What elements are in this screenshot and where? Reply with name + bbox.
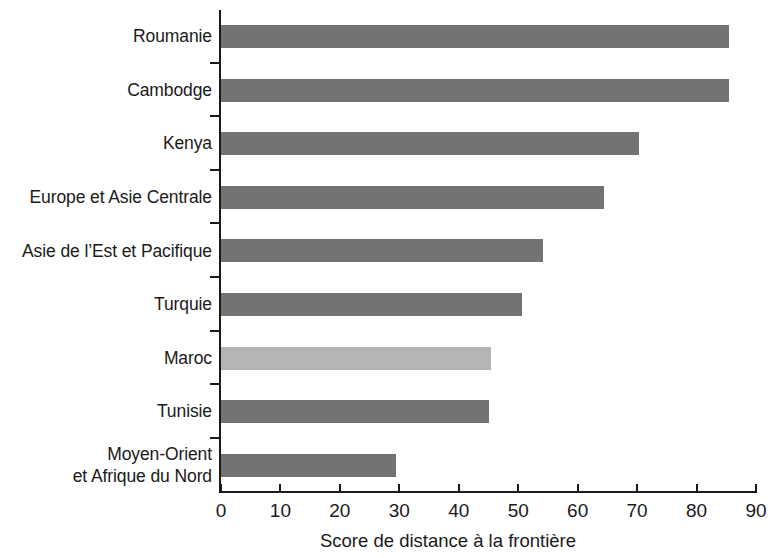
bar-row: Maroc — [0, 332, 766, 386]
category-label: Maroc — [0, 332, 212, 386]
x-axis-tick-label: 80 — [667, 500, 727, 522]
bar — [221, 454, 396, 477]
bar-row: Tunisie — [0, 385, 766, 439]
y-axis-tick — [210, 62, 220, 64]
x-axis-tick-label: 20 — [310, 500, 370, 522]
x-axis-tick — [220, 484, 222, 493]
x-axis-tick-label: 50 — [488, 500, 548, 522]
bar — [221, 186, 604, 209]
bar-row: Cambodge — [0, 64, 766, 118]
category-label: Cambodge — [0, 64, 212, 118]
bar — [221, 132, 639, 155]
x-axis-tick — [696, 484, 698, 493]
bar — [221, 239, 543, 262]
bar — [221, 293, 522, 316]
x-axis-tick — [755, 484, 757, 493]
y-axis-tick — [210, 437, 220, 439]
category-label: Kenya — [0, 117, 212, 171]
category-label: Europe et Asie Centrale — [0, 171, 212, 225]
x-axis-tick-label: 0 — [191, 500, 251, 522]
bar-row: Moyen-Orient et Afrique du Nord — [0, 439, 766, 493]
x-axis-tick — [517, 484, 519, 493]
bar-row: Asie de l’Est et Pacifique — [0, 224, 766, 278]
bar-row: Kenya — [0, 117, 766, 171]
x-axis-tick-label: 90 — [726, 500, 771, 522]
x-axis-tick-label: 10 — [250, 500, 310, 522]
category-label: Roumanie — [0, 10, 212, 64]
x-axis-tick — [339, 484, 341, 493]
bar-row: Roumanie — [0, 10, 766, 64]
x-axis-title-wrap: Score de distance à la frontière — [0, 530, 766, 552]
x-axis-tick — [279, 484, 281, 493]
x-axis-tick — [577, 484, 579, 493]
y-axis-tick — [210, 169, 220, 171]
x-axis-tick — [636, 484, 638, 493]
bar — [221, 347, 491, 370]
category-label: Turquie — [0, 278, 212, 332]
x-axis-tick-label: 30 — [369, 500, 429, 522]
category-label: Asie de l’Est et Pacifique — [0, 224, 212, 278]
x-axis-tick-label: 70 — [607, 500, 667, 522]
x-axis-tick — [398, 484, 400, 493]
bar — [221, 25, 729, 48]
x-axis-tick — [458, 484, 460, 493]
category-label: Moyen-Orient et Afrique du Nord — [0, 439, 212, 493]
category-label: Tunisie — [0, 385, 212, 439]
bar-row: Europe et Asie Centrale — [0, 171, 766, 225]
x-axis-tick-label: 60 — [548, 500, 608, 522]
bar — [221, 400, 489, 423]
y-axis-tick — [210, 276, 220, 278]
x-axis-tick-label: 40 — [429, 500, 489, 522]
y-axis-tick — [210, 222, 220, 224]
y-axis-tick — [210, 330, 220, 332]
bar-row: Turquie — [0, 278, 766, 332]
y-axis-tick — [210, 383, 220, 385]
x-axis-title: Score de distance à la frontière — [320, 530, 576, 552]
y-axis-tick — [210, 115, 220, 117]
bar — [221, 79, 729, 102]
